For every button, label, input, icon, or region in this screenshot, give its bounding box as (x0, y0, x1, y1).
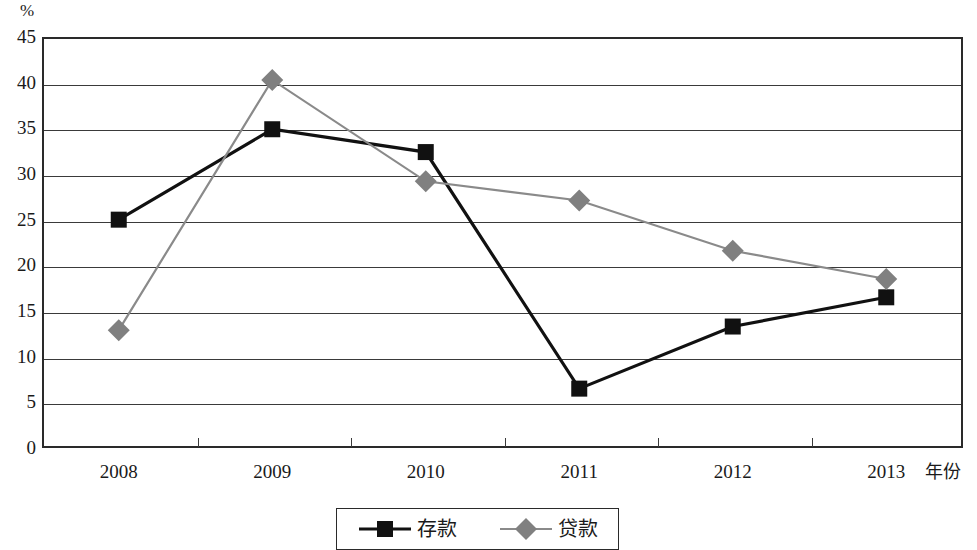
x-axis-tick-label: 2008 (74, 462, 164, 481)
data-point-diamond (875, 268, 897, 290)
data-point-square (418, 144, 434, 160)
y-axis-tick-label: 20 (2, 255, 36, 274)
x-axis-title: 年份 (925, 462, 961, 481)
x-axis-tick-label: 2010 (381, 462, 471, 481)
y-axis-tick-label: 15 (2, 301, 36, 320)
y-axis-tick-label: 30 (2, 164, 36, 183)
legend-entry: 存款 (357, 518, 457, 540)
data-point-square (878, 289, 894, 305)
y-axis-tick-label: 10 (2, 347, 36, 366)
data-point-diamond (568, 189, 590, 211)
series-overlay (42, 37, 963, 448)
legend-label: 存款 (417, 519, 457, 539)
y-axis-tick-label: 45 (2, 27, 36, 46)
square-marker-icon (357, 518, 413, 540)
y-axis-tick-label: 40 (2, 73, 36, 92)
y-axis-tick-label: 25 (2, 210, 36, 229)
x-axis-tick-label: 2012 (688, 462, 778, 481)
y-axis-tick-label: 0 (2, 438, 36, 457)
data-point-square (111, 212, 127, 228)
x-axis-tick-label: 2013 (841, 462, 931, 481)
data-point-diamond (415, 170, 437, 192)
data-point-square (571, 381, 587, 397)
y-axis-tick-label: 5 (2, 392, 36, 411)
diamond-marker-icon (498, 518, 554, 540)
data-point-square (725, 319, 741, 335)
data-point-diamond (108, 319, 130, 341)
data-point-diamond (261, 69, 283, 91)
series-line (119, 80, 887, 330)
legend-label: 贷款 (558, 519, 598, 539)
data-point-diamond (722, 240, 744, 262)
x-axis-tick-label: 2011 (534, 462, 624, 481)
legend-entry: 贷款 (498, 518, 598, 540)
y-axis-tick-label: 35 (2, 118, 36, 137)
y-axis-tick-labels: 454035302520151050 (0, 0, 36, 543)
data-point-square (264, 121, 280, 137)
series-line (119, 129, 887, 388)
x-axis-tick-label: 2009 (227, 462, 317, 481)
chart-legend: 存款贷款 (336, 508, 619, 550)
